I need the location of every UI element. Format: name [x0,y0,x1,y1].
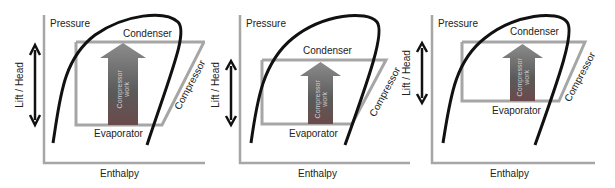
compressor-work-label: Compressor work [516,52,531,102]
evaporator-label: Evaporator [492,106,541,116]
x-axis-label: Enthalpy [100,169,139,179]
y-axis-label: Pressure [438,19,478,29]
lift-head-arrow-icon [30,45,40,125]
lift-head-label: Lift / Head [211,62,221,108]
y-axis-label: Pressure [246,19,286,29]
y-axis-label: Pressure [50,19,90,29]
ph-diagram-panel-3: Pressure Condenser Evaporator Enthalpy L… [410,0,615,188]
panel-1-graphics [0,0,205,188]
compressor-work-label: Compressor work [314,74,329,124]
x-axis-label: Enthalpy [490,169,529,179]
evaporator-label: Evaporator [289,129,338,139]
condenser-label: Condenser [510,27,559,37]
lift-head-arrow-icon [226,61,236,125]
ph-diagram-panel-2: Pressure Condenser Evaporator Enthalpy L… [205,0,410,188]
x-axis-label: Enthalpy [298,169,337,179]
lift-head-label: Lift / Head [402,50,412,96]
ph-diagram-panel-1: Pressure Condenser Evaporator Enthalpy L… [0,0,205,188]
evaporator-label: Evaporator [94,129,143,139]
condenser-label: Condenser [123,29,172,39]
lift-head-label: Lift / Head [15,62,25,108]
compressor-work-label: Compressor work [116,64,131,114]
lift-head-arrow-icon [417,43,427,103]
condenser-label: Condenser [303,46,352,56]
